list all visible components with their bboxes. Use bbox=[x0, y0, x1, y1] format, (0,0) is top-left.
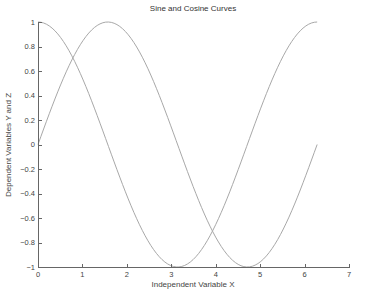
y-axis-label: Dependent Variables Y and Z bbox=[4, 93, 13, 197]
plot-area bbox=[38, 22, 317, 267]
series-sin-line bbox=[38, 22, 317, 267]
x-tick-label: 2 bbox=[125, 270, 129, 279]
y-tick-label: −1 bbox=[26, 263, 35, 272]
y-tick-label: 0.2 bbox=[25, 116, 35, 125]
x-axis-label: Independent Variable X bbox=[151, 280, 235, 289]
x-tick-label: 0 bbox=[36, 270, 40, 279]
y-tick-label: 0 bbox=[31, 140, 35, 149]
y-tick-label: −0.2 bbox=[20, 165, 35, 174]
y-tick-label: 0.4 bbox=[25, 91, 35, 100]
chart-title: Sine and Cosine Curves bbox=[150, 4, 236, 13]
x-tick-label: 3 bbox=[169, 270, 173, 279]
chart: Sine and Cosine Curves 01234567 −1−0.8−0… bbox=[0, 0, 365, 293]
x-tick-label: 5 bbox=[258, 270, 262, 279]
y-tick-label: −0.8 bbox=[20, 238, 35, 247]
y-tick-label: −0.4 bbox=[20, 189, 35, 198]
x-tick-label: 4 bbox=[214, 270, 218, 279]
y-tick-label: 1 bbox=[31, 18, 35, 27]
y-tick-label: −0.6 bbox=[20, 214, 35, 223]
x-ticks: 01234567 bbox=[36, 264, 351, 279]
y-tick-label: 0.8 bbox=[25, 42, 35, 51]
axes: 01234567 −1−0.8−0.6−0.4−0.200.20.40.60.8… bbox=[20, 18, 351, 280]
x-tick-label: 7 bbox=[347, 270, 351, 279]
x-tick-label: 6 bbox=[302, 270, 306, 279]
y-tick-label: 0.6 bbox=[25, 67, 35, 76]
x-tick-label: 1 bbox=[80, 270, 84, 279]
